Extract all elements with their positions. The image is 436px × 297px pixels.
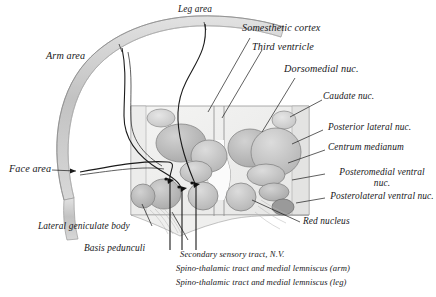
label-spinothalamic-leg: Spino-thalamic tract and medial lemniscu… bbox=[176, 278, 347, 288]
label-caudate-nuc: Caudate nuc. bbox=[323, 91, 374, 102]
label-arm-area: Arm area bbox=[46, 50, 85, 62]
label-leg-area: Leg area bbox=[178, 4, 212, 15]
cortex-band-lower-tail bbox=[64, 198, 78, 240]
label-somesthetic-cortex: Somesthetic cortex bbox=[242, 22, 320, 34]
label-posteromedial-ventral-nuc: Posteromedial ventral nuc. bbox=[330, 167, 434, 188]
label-face-area: Face area bbox=[9, 163, 51, 175]
label-basis-pedunculi: Basis pedunculi bbox=[84, 243, 145, 254]
label-lateral-geniculate-body: Lateral geniculate body bbox=[38, 221, 130, 232]
label-red-nucleus: Red nucleus bbox=[303, 216, 350, 227]
label-dorsomedial-nuc: Dorsomedial nuc. bbox=[284, 63, 359, 75]
label-posterolateral-ventral-nuc: Posterolateral ventral nuc. bbox=[330, 191, 434, 202]
label-centrum-medianum: Centrum medianum bbox=[328, 142, 404, 153]
label-spinothalamic-arm: Spino-thalamic tract and medial lemniscu… bbox=[176, 264, 350, 274]
label-third-ventricle: Third ventricle bbox=[252, 41, 314, 53]
anatomy-figure: Leg area Arm area Face area Somesthetic … bbox=[0, 0, 436, 297]
label-secondary-sensory-tract: Secondary sensory tract, N.V. bbox=[180, 250, 284, 260]
label-posterior-lateral-nuc: Posterior lateral nuc. bbox=[328, 122, 411, 133]
